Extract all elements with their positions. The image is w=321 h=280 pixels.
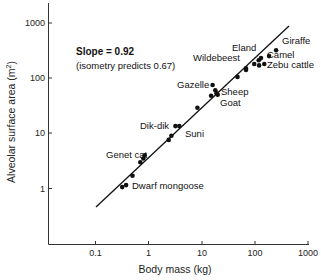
data-point (256, 58, 261, 63)
y-ticks: 1000 100 10 1 (25, 18, 52, 194)
x-tick-label: 10 (197, 248, 207, 258)
data-point (195, 106, 200, 111)
label-gazelle: Gazelle (177, 79, 209, 90)
data-point (130, 174, 135, 179)
data-point (235, 75, 240, 80)
x-tick-label: 0.1 (89, 248, 102, 258)
data-point (210, 83, 215, 88)
label-sheep: Sheep (221, 86, 248, 97)
x-ticks: 0.1 1 10 100 1000 (89, 241, 318, 258)
y-tick-label: 100 (30, 73, 45, 83)
data-point (124, 183, 129, 188)
x-tick-label: 1000 (298, 248, 318, 258)
data-point (252, 62, 257, 67)
data-point (177, 124, 182, 129)
data-point (209, 93, 214, 98)
label-giraffe: Giraffe (282, 35, 310, 46)
data-point (138, 160, 143, 165)
y-tick-label: 10 (35, 128, 45, 138)
label-suni: Suni (185, 128, 204, 139)
axes (49, 3, 310, 245)
y-axis-title: Alveolar surface area (m2) (5, 61, 17, 183)
label-dwarf-mongoose: Dwarf mongoose (132, 180, 204, 191)
data-point (257, 63, 262, 68)
label-dik-dik: Dik-dik (140, 120, 169, 131)
isometry-annotation: (isometry predicts 0.67) (76, 60, 175, 71)
data-point (262, 62, 267, 67)
slope-annotation: Slope = 0.92 (76, 46, 135, 57)
y-tick-label: 1000 (25, 18, 45, 28)
label-genet-cat: Genet cat (106, 149, 148, 160)
data-point (169, 134, 174, 139)
label-goat: Goat (220, 97, 241, 108)
y-tick-label: 1 (40, 184, 45, 194)
data-point (120, 185, 125, 190)
x-tick-label: 1 (146, 248, 151, 258)
x-tick-label: 100 (247, 248, 262, 258)
data-point (166, 138, 171, 143)
x-axis-title: Body mass (kg) (139, 263, 212, 275)
scatter-plot: 1000 100 10 1 0.1 1 10 100 1000 Body mas… (0, 0, 321, 280)
label-wildebeest: Wildebeest (193, 52, 240, 63)
data-point (244, 66, 249, 71)
label-zebu-cattle: Zebu cattle (267, 59, 314, 70)
